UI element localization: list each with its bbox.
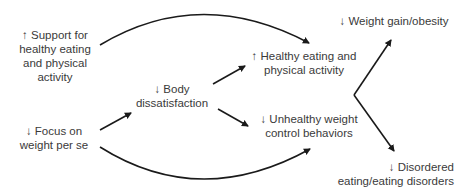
node-unhealthy-weight-control: ↓ Unhealthy weight control behaviors [258,112,360,140]
node-line: ↓ Weight gain/obesity [338,14,450,28]
arrow-body-to-unhealthy [218,109,248,126]
node-line: eating/eating disorders [336,174,454,188]
node-line: ↓ Focus on [18,124,90,138]
arrow-focus-to-body [100,113,131,130]
node-focus-on-weight: ↓ Focus on weight per se [18,124,90,152]
node-line: activity [14,70,96,84]
node-line: ↓ Body [134,82,210,96]
node-line: physical activity [248,63,360,77]
node-line: dissatisfaction [134,96,210,110]
node-line: ↓ Unhealthy weight [258,112,360,126]
node-line: weight per se [18,138,90,152]
node-weight-gain-obesity: ↓ Weight gain/obesity [338,14,450,28]
node-line: ↑ Healthy eating and [248,49,360,63]
arrow-body-to-healthy [213,66,245,84]
node-line: ↓ Disordered [336,160,454,174]
node-disordered-eating: ↓ Disordered eating/eating disorders [336,160,454,188]
node-line: control behaviors [258,126,360,140]
node-line: ↑ Support for [14,28,96,42]
node-line: and physical [14,56,96,70]
node-body-dissatisfaction: ↓ Body dissatisfaction [134,82,210,110]
node-line: healthy eating [14,42,96,56]
arrow-v-to-disordered [354,95,394,151]
node-support-healthy-eating: ↑ Support for healthy eating and physica… [14,28,96,84]
arrow-focus-to-unhealthy [100,147,310,179]
node-healthy-eating-activity: ↑ Healthy eating and physical activity [248,49,360,77]
arrow-support-to-healthy [100,14,309,45]
